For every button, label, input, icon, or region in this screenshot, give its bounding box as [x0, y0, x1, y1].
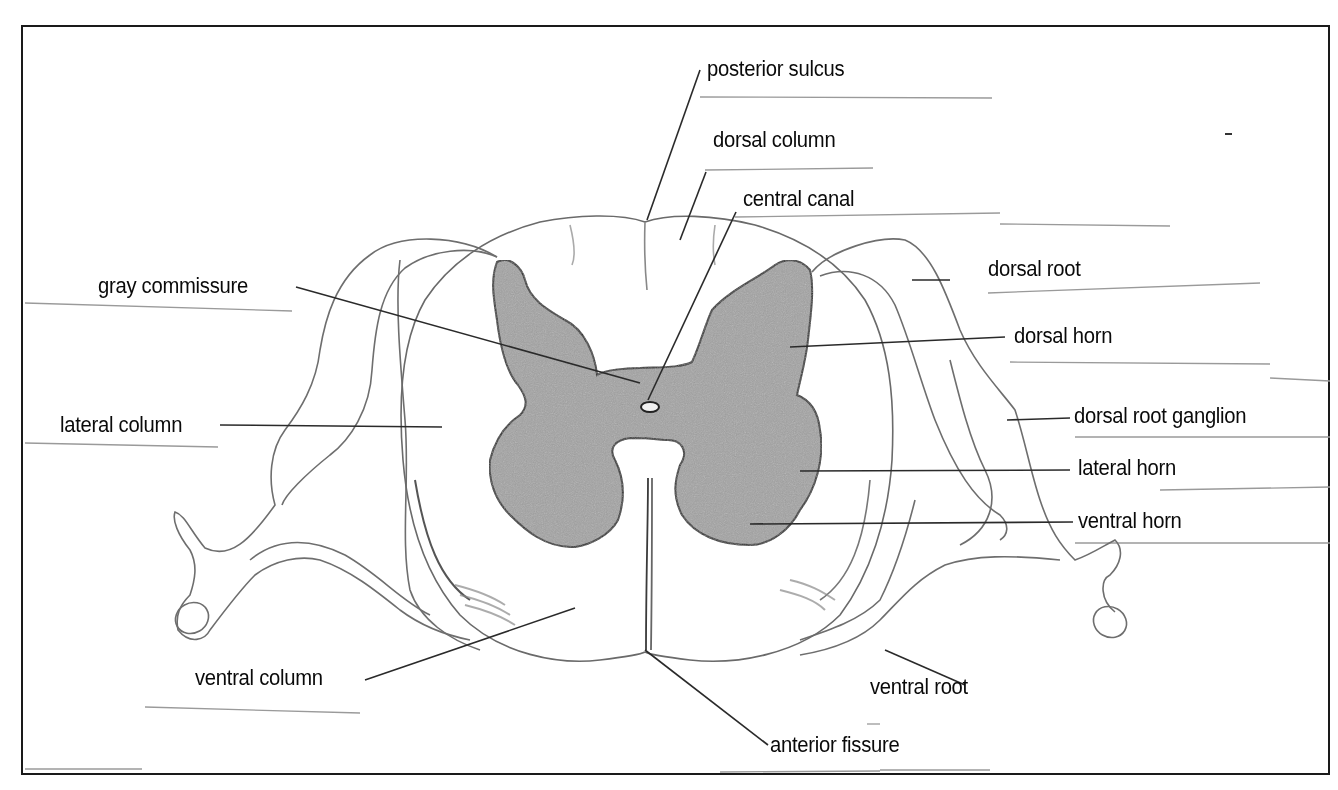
label-dorsal-column: dorsal column [713, 129, 835, 151]
label-gray-commissure: gray commissure [98, 275, 248, 297]
label-lateral-horn: lateral horn [1078, 457, 1176, 479]
central-canal-shape [641, 402, 659, 412]
label-dorsal-root: dorsal root [988, 258, 1081, 280]
left-nerve [170, 239, 497, 650]
ventral-rootlet-shading [455, 580, 835, 625]
label-ventral-column: ventral column [195, 667, 323, 689]
right-nerve [800, 239, 1132, 655]
anterior-fissure-shape [646, 478, 652, 650]
label-posterior-sulcus: posterior sulcus [707, 58, 844, 80]
label-ventral-root: ventral root [870, 676, 968, 698]
label-central-canal: central canal [743, 188, 854, 210]
label-ventral-horn: ventral horn [1078, 510, 1182, 532]
label-dorsal-root-ganglion: dorsal root ganglion [1074, 405, 1246, 427]
label-lateral-column: lateral column [60, 414, 182, 436]
label-dorsal-horn: dorsal horn [1014, 325, 1112, 347]
label-anterior-fissure: anterior fissure [770, 734, 899, 756]
